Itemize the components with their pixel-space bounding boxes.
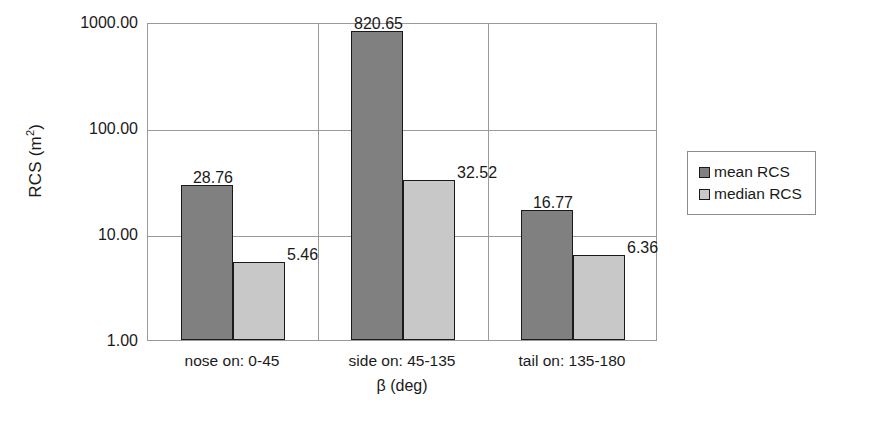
legend-label-mean-rcs: mean RCS <box>714 164 790 180</box>
legend-swatch-median-rcs <box>699 189 710 200</box>
x-axis-tick-label: nose on: 0-45 <box>147 352 317 370</box>
x-axis-tick-label: side on: 45-135 <box>317 352 487 370</box>
bar-value-label: 5.46 <box>287 247 318 263</box>
x-axis-tick-label: tail on: 135-180 <box>487 352 657 370</box>
bar-value-label: 16.77 <box>533 195 573 211</box>
y-axis-tick-label: 1000.00 <box>38 15 138 31</box>
legend-swatch-mean-rcs <box>699 167 710 178</box>
bar-value-label: 6.36 <box>627 240 658 256</box>
chart-legend: mean RCS median RCS <box>687 151 816 215</box>
group-separator-line <box>318 24 319 340</box>
y-axis-tick-label: 1.00 <box>38 333 138 349</box>
x-axis-title: β (deg) <box>147 377 657 395</box>
y-axis-tick-labels: 1000.00100.0010.001.00 <box>38 0 138 426</box>
y-axis-tick-label: 100.00 <box>38 121 138 137</box>
rcs-bar-chart: RCS (m2) 1000.00100.0010.001.00 28.765.4… <box>0 0 875 426</box>
x-axis-tick-labels: nose on: 0-45side on: 45-135tail on: 135… <box>147 352 657 374</box>
bar-value-label: 28.76 <box>193 170 233 186</box>
legend-item-mean-rcs[interactable]: mean RCS <box>699 161 802 183</box>
bar-value-label: 820.65 <box>354 16 403 32</box>
bar-median-rcs-0[interactable] <box>233 262 285 340</box>
bar-mean-rcs-1[interactable] <box>351 31 403 340</box>
legend-item-median-rcs[interactable]: median RCS <box>699 183 802 205</box>
bar-mean-rcs-2[interactable] <box>521 210 573 340</box>
bar-median-rcs-1[interactable] <box>403 180 455 340</box>
bar-mean-rcs-0[interactable] <box>181 185 233 340</box>
bar-value-label: 32.52 <box>457 165 497 181</box>
plot-area: 28.765.46820.6532.5216.776.36 <box>147 23 657 341</box>
bar-median-rcs-2[interactable] <box>573 255 625 340</box>
group-separator-line <box>488 24 489 340</box>
y-axis-tick-label: 10.00 <box>38 227 138 243</box>
legend-label-median-rcs: median RCS <box>714 186 802 202</box>
y-axis-title-superscript: 2 <box>24 130 36 136</box>
